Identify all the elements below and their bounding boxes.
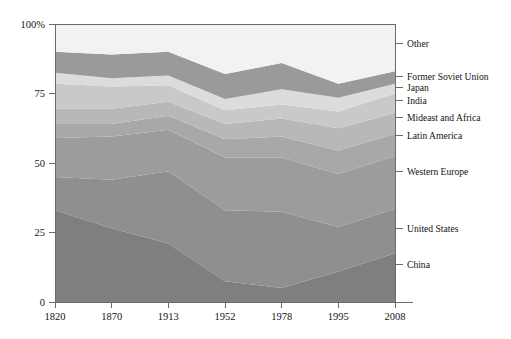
- legend-label-mideast-and-africa: Mideast and Africa: [407, 112, 481, 123]
- legend-label-western-europe: Western Europe: [407, 166, 468, 177]
- y-axis-ticks: 0255075100%: [21, 19, 56, 308]
- x-tick-label: 1952: [215, 311, 236, 322]
- x-tick-label: 1913: [158, 311, 179, 322]
- legend-label-india: India: [407, 95, 427, 106]
- y-tick-label: 0: [40, 297, 45, 308]
- x-tick-label: 1820: [45, 311, 66, 322]
- x-tick-label: 1870: [101, 311, 122, 322]
- x-axis-ticks: 1820187019131952197819952008: [45, 302, 406, 322]
- legend-label-latin-america: Latin America: [407, 130, 463, 141]
- y-tick-label: 50: [35, 158, 46, 169]
- legend-label-former-soviet-union: Former Soviet Union: [407, 71, 489, 82]
- legend-label-japan: Japan: [407, 82, 429, 93]
- x-tick-label: 2008: [385, 311, 406, 322]
- chart-figure: 1820187019131952197819952008 0255075100%…: [0, 0, 511, 339]
- y-tick-label: 25: [35, 227, 46, 238]
- stacked-area-chart: 1820187019131952197819952008 0255075100%…: [0, 0, 511, 339]
- area-bands: [55, 24, 395, 302]
- y-tick-label: 100%: [21, 19, 46, 30]
- legend-label-united-states: United States: [407, 223, 459, 234]
- legend-label-other: Other: [407, 38, 430, 49]
- chart-legend: OtherFormer Soviet UnionJapanIndiaMideas…: [395, 38, 489, 270]
- x-tick-label: 1978: [271, 311, 292, 322]
- y-tick-label: 75: [35, 88, 46, 99]
- legend-label-china: China: [407, 259, 431, 270]
- x-tick-label: 1995: [328, 311, 349, 322]
